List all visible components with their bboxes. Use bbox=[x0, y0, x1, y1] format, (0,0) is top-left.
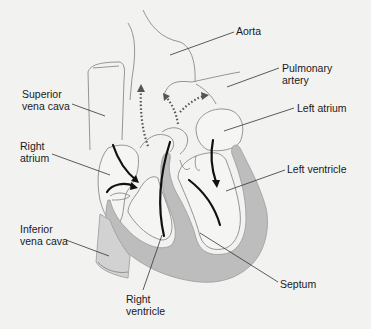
label-left-atrium: Left atrium bbox=[297, 102, 347, 114]
pulmonary-artery-shape bbox=[164, 72, 240, 95]
dotted-arrow-aorta-right bbox=[180, 96, 204, 112]
aorta-inner-edge bbox=[128, 23, 135, 100]
left-atrium-shape bbox=[196, 109, 243, 151]
label-aorta: Aorta bbox=[236, 25, 261, 37]
dotted-arrow-pulmonary-up bbox=[141, 90, 148, 146]
label-inferior-vena-cava: Inferior vena cava bbox=[20, 223, 68, 247]
aorta-shape bbox=[143, 10, 195, 82]
dotted-arrow-aorta-left bbox=[166, 97, 178, 124]
superior-vena-cava-shape bbox=[88, 62, 125, 150]
label-pulmonary-artery: Pulmonary artery bbox=[282, 62, 332, 86]
heart-diagram: Aorta Pulmonary artery Superior vena cav… bbox=[0, 0, 371, 329]
label-superior-vena-cava: Superior vena cava bbox=[22, 88, 70, 112]
label-right-ventricle: Right ventricle bbox=[126, 293, 165, 317]
label-septum: Septum bbox=[280, 278, 316, 290]
label-left-ventricle: Left ventricle bbox=[287, 163, 347, 175]
label-right-atrium: Right atrium bbox=[20, 140, 49, 164]
